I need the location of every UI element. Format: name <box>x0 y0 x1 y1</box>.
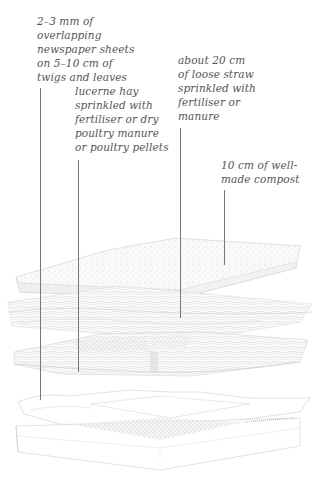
leader-line-newspaper <box>40 88 41 400</box>
leader-line-lucerne-hay <box>78 160 79 372</box>
raised-bed-frame <box>16 418 300 470</box>
leader-line-compost <box>224 190 225 265</box>
layer-illustration <box>0 0 322 483</box>
straw-layer <box>8 286 312 338</box>
lucerne-hay-layer <box>14 332 308 376</box>
leader-line-straw <box>180 128 181 318</box>
